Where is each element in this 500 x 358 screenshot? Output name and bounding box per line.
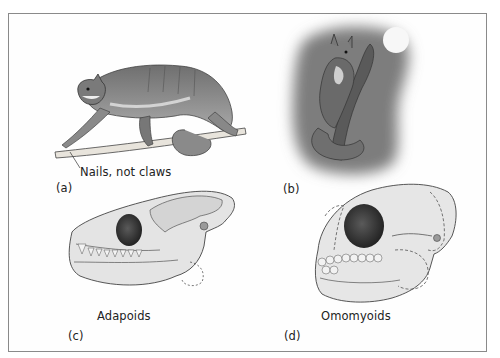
annotation-nails-not-claws: Nails, not claws xyxy=(80,165,171,179)
panel-label-c: (c) xyxy=(68,329,84,343)
moon-icon xyxy=(383,27,409,53)
panel-label-d: (d) xyxy=(284,329,301,343)
panel-d-skull xyxy=(315,184,456,302)
caption-adapoids: Adapoids xyxy=(97,309,151,323)
panel-b-illustration xyxy=(293,27,409,174)
panel-a-illustration xyxy=(55,65,246,168)
panel-c-skull xyxy=(69,191,234,285)
panel-label-a: (a) xyxy=(56,181,72,195)
panel-label-b: (b) xyxy=(283,182,300,196)
figure-illustrations xyxy=(0,0,500,358)
caption-omomyoids: Omomyoids xyxy=(321,309,391,323)
